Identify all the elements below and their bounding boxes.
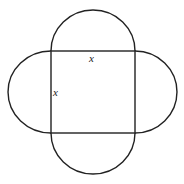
left-side-label: x — [52, 86, 58, 98]
square-semicircles-figure: x x — [0, 0, 184, 184]
right-semicircle — [135, 51, 177, 133]
top-side-label: x — [88, 52, 94, 64]
bottom-semicircle — [51, 133, 135, 174]
top-semicircle — [51, 10, 135, 51]
left-semicircle — [8, 51, 51, 133]
